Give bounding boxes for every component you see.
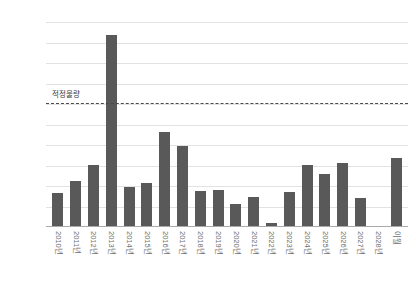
- plot-area: 5,0004,5004,0003,5003,000,25002,0001,500…: [46, 22, 408, 227]
- x-axis-tick-label: 2025년: [321, 231, 329, 255]
- bar[interactable]: [319, 174, 330, 226]
- bar-slot: [102, 22, 120, 226]
- x-axis-tick-label: 2011년: [72, 231, 80, 254]
- category-label-slot: 2019년: [209, 229, 227, 285]
- x-axis-tick-label: 2028년: [374, 231, 382, 255]
- x-axis-tick-label: 2010년: [54, 231, 62, 255]
- bar[interactable]: [284, 192, 295, 226]
- bar[interactable]: [106, 35, 117, 226]
- x-axis-tick-label: 2027년: [357, 231, 365, 255]
- x-axis-tick-label: 2014년: [125, 231, 133, 255]
- bar[interactable]: [52, 193, 63, 226]
- x-axis-tick-label: 2023년: [286, 231, 294, 255]
- x-axis-tick-label: 2024년: [303, 231, 311, 255]
- x-axis-tick-label: 2013년: [108, 231, 116, 255]
- category-axis: [46, 226, 408, 227]
- category-label-slot: 2022년: [263, 229, 281, 285]
- category-label-slot: 2014년: [120, 229, 138, 285]
- bar[interactable]: [88, 165, 99, 227]
- category-label-slot: 2027년: [352, 229, 370, 285]
- bar-slot: [280, 22, 298, 226]
- bar[interactable]: [337, 163, 348, 226]
- x-axis-tick-label: 2020년: [232, 231, 240, 255]
- category-label-slot: 2028년: [369, 229, 387, 285]
- category-label-slot: 2024년: [298, 229, 316, 285]
- x-axis-tick-label: 2026년: [339, 231, 347, 255]
- category-label-slot: 2018년: [191, 229, 209, 285]
- category-label-slot: 2013년: [102, 229, 120, 285]
- category-label-slot: 2023년: [280, 229, 298, 285]
- bar[interactable]: [391, 158, 402, 226]
- category-label-row: 2010년2011년2012년2013년2014년2015년2016년2017년…: [46, 229, 408, 285]
- category-label-slot: 2015년: [138, 229, 156, 285]
- bar-slot: [369, 22, 387, 226]
- bar-slot: [191, 22, 209, 226]
- bar[interactable]: [70, 181, 81, 226]
- bar-slot: [263, 22, 281, 226]
- bar[interactable]: [159, 132, 170, 226]
- bar-slot: [227, 22, 245, 226]
- category-label-slot: 2011년: [67, 229, 85, 285]
- x-axis-tick-label: 2015년: [143, 231, 151, 255]
- x-axis-tick-label: 2018년: [197, 231, 205, 255]
- bar[interactable]: [141, 183, 152, 226]
- bar-slot: [49, 22, 67, 226]
- target-threshold-line: [46, 103, 408, 104]
- x-axis-tick-label: 2019년: [214, 231, 222, 255]
- bar[interactable]: [213, 190, 224, 226]
- x-axis-tick-label: 2012년: [90, 231, 98, 255]
- bar-slot: [85, 22, 103, 226]
- bar[interactable]: [302, 165, 313, 226]
- category-label-slot: 2017년: [174, 229, 192, 285]
- bar[interactable]: [248, 197, 259, 226]
- x-axis-tick-label: 이월: [392, 231, 400, 245]
- category-label-slot: 2021년: [245, 229, 263, 285]
- bar-slot: [67, 22, 85, 226]
- bar[interactable]: [195, 191, 206, 226]
- bar-chart: 5,0004,5004,0003,5003,000,25002,0001,500…: [0, 0, 416, 285]
- target-threshold-label: 적정물량: [52, 91, 80, 99]
- bar-slot: [138, 22, 156, 226]
- bar-slot: [174, 22, 192, 226]
- bar-slot: [245, 22, 263, 226]
- bar-slot: [120, 22, 138, 226]
- x-axis-tick-label: 2017년: [179, 231, 187, 255]
- bar-series: [46, 22, 408, 226]
- category-label-slot: 2020년: [227, 229, 245, 285]
- bar[interactable]: [355, 198, 366, 226]
- bar-slot: [298, 22, 316, 226]
- bar-slot: [352, 22, 370, 226]
- bar-slot: [334, 22, 352, 226]
- category-label-slot: 2026년: [334, 229, 352, 285]
- bar-slot: [156, 22, 174, 226]
- category-label-slot: 2012년: [85, 229, 103, 285]
- bar[interactable]: [124, 187, 135, 226]
- bar[interactable]: [230, 204, 241, 226]
- x-axis-tick-label: 2016년: [161, 231, 169, 255]
- category-label-slot: 2016년: [156, 229, 174, 285]
- category-label-slot: 2025년: [316, 229, 334, 285]
- bar-slot: [387, 22, 405, 226]
- bar[interactable]: [177, 146, 188, 226]
- x-axis-tick-label: 2021년: [250, 231, 258, 255]
- category-label-slot: 2010년: [49, 229, 67, 285]
- bar-slot: [316, 22, 334, 226]
- x-axis-tick-label: 2022년: [268, 231, 276, 255]
- category-label-slot: 이월: [387, 229, 405, 285]
- bar-slot: [209, 22, 227, 226]
